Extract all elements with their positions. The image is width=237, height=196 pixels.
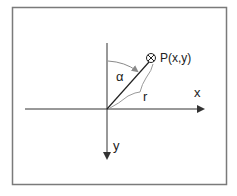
angle-label: α xyxy=(116,69,124,84)
polar-coordinate-diagram: P(x,y) x y α r xyxy=(0,0,237,196)
radius-label: r xyxy=(143,89,148,104)
point-marker-icon xyxy=(147,54,156,63)
point-label: P(x,y) xyxy=(160,51,191,65)
y-axis-label: y xyxy=(113,138,120,153)
x-axis-label: x xyxy=(194,85,201,100)
